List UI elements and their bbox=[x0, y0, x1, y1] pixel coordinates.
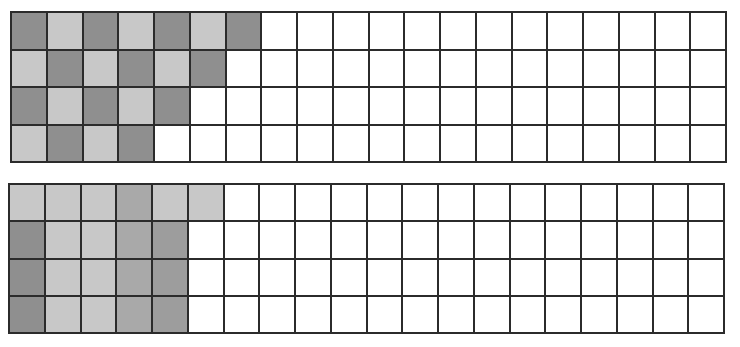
empty-cell bbox=[405, 126, 439, 162]
shaded-cell-medium_dark bbox=[153, 222, 187, 257]
shaded-cell-light bbox=[12, 51, 46, 87]
empty-cell bbox=[511, 185, 545, 220]
empty-cell bbox=[370, 13, 404, 49]
empty-cell bbox=[439, 297, 473, 332]
empty-cell bbox=[618, 297, 652, 332]
empty-cell bbox=[689, 297, 723, 332]
empty-cell bbox=[296, 185, 330, 220]
empty-cell bbox=[189, 222, 223, 257]
empty-cell bbox=[260, 185, 294, 220]
empty-cell bbox=[260, 222, 294, 257]
shaded-cell-light bbox=[82, 222, 116, 257]
empty-cell bbox=[368, 260, 402, 295]
shaded-cell-light bbox=[82, 297, 116, 332]
shaded-cell-dark bbox=[48, 126, 82, 162]
empty-cell bbox=[405, 51, 439, 87]
empty-cell bbox=[405, 13, 439, 49]
shaded-cell-light bbox=[48, 13, 82, 49]
shaded-cell-light bbox=[82, 185, 116, 220]
empty-cell bbox=[582, 185, 616, 220]
empty-cell bbox=[618, 260, 652, 295]
shaded-cell-light bbox=[84, 51, 118, 87]
empty-cell bbox=[227, 51, 261, 87]
empty-cell bbox=[656, 126, 690, 162]
empty-cell bbox=[439, 185, 473, 220]
empty-cell bbox=[439, 222, 473, 257]
empty-cell bbox=[334, 13, 368, 49]
empty-cell bbox=[475, 222, 509, 257]
empty-cell bbox=[656, 88, 690, 124]
empty-cell bbox=[441, 51, 475, 87]
shaded-cell-dark bbox=[119, 51, 153, 87]
empty-cell bbox=[403, 260, 437, 295]
shaded-cell-light bbox=[48, 88, 82, 124]
empty-cell bbox=[620, 88, 654, 124]
empty-cell bbox=[262, 126, 296, 162]
empty-cell bbox=[511, 260, 545, 295]
empty-cell bbox=[477, 126, 511, 162]
empty-cell bbox=[191, 126, 225, 162]
empty-cell bbox=[475, 260, 509, 295]
shaded-cell-dark bbox=[191, 51, 225, 87]
empty-cell bbox=[332, 222, 366, 257]
shaded-cell-medium_dark bbox=[153, 260, 187, 295]
shaded-cell-medium bbox=[117, 260, 151, 295]
shaded-cell-light bbox=[10, 185, 44, 220]
empty-cell bbox=[370, 51, 404, 87]
shaded-cell-light bbox=[191, 13, 225, 49]
empty-cell bbox=[475, 185, 509, 220]
shaded-cell-dark bbox=[12, 13, 46, 49]
shaded-cell-light bbox=[46, 260, 80, 295]
empty-cell bbox=[334, 126, 368, 162]
empty-cell bbox=[584, 13, 618, 49]
shaded-cell-light bbox=[119, 88, 153, 124]
empty-cell bbox=[298, 126, 332, 162]
shaded-cell-light bbox=[46, 185, 80, 220]
empty-cell bbox=[298, 88, 332, 124]
empty-cell bbox=[332, 297, 366, 332]
shaded-cell-medium_dark bbox=[153, 297, 187, 332]
empty-cell bbox=[298, 13, 332, 49]
empty-cell bbox=[689, 260, 723, 295]
bottom-grid bbox=[8, 183, 725, 334]
empty-cell bbox=[475, 297, 509, 332]
empty-cell bbox=[689, 185, 723, 220]
empty-cell bbox=[191, 88, 225, 124]
empty-cell bbox=[477, 13, 511, 49]
empty-cell bbox=[262, 51, 296, 87]
empty-cell bbox=[511, 297, 545, 332]
empty-cell bbox=[654, 297, 688, 332]
shaded-cell-dark bbox=[119, 126, 153, 162]
shaded-cell-light bbox=[153, 185, 187, 220]
empty-cell bbox=[477, 88, 511, 124]
empty-cell bbox=[332, 185, 366, 220]
empty-cell bbox=[654, 260, 688, 295]
shaded-cell-medium bbox=[117, 297, 151, 332]
empty-cell bbox=[296, 222, 330, 257]
shaded-cell-light bbox=[189, 185, 223, 220]
empty-cell bbox=[513, 51, 547, 87]
empty-cell bbox=[405, 88, 439, 124]
empty-cell bbox=[582, 260, 616, 295]
empty-cell bbox=[370, 88, 404, 124]
shaded-cell-light bbox=[12, 126, 46, 162]
empty-cell bbox=[403, 185, 437, 220]
empty-cell bbox=[368, 297, 402, 332]
empty-cell bbox=[546, 222, 580, 257]
shaded-cell-light bbox=[155, 51, 189, 87]
empty-cell bbox=[691, 13, 725, 49]
empty-cell bbox=[618, 222, 652, 257]
shaded-cell-dark bbox=[84, 88, 118, 124]
empty-cell bbox=[441, 13, 475, 49]
empty-cell bbox=[403, 222, 437, 257]
empty-cell bbox=[334, 51, 368, 87]
empty-cell bbox=[691, 88, 725, 124]
empty-cell bbox=[260, 297, 294, 332]
empty-cell bbox=[227, 88, 261, 124]
empty-cell bbox=[332, 260, 366, 295]
empty-cell bbox=[584, 51, 618, 87]
empty-cell bbox=[546, 260, 580, 295]
empty-cell bbox=[260, 260, 294, 295]
empty-cell bbox=[368, 222, 402, 257]
empty-cell bbox=[546, 297, 580, 332]
